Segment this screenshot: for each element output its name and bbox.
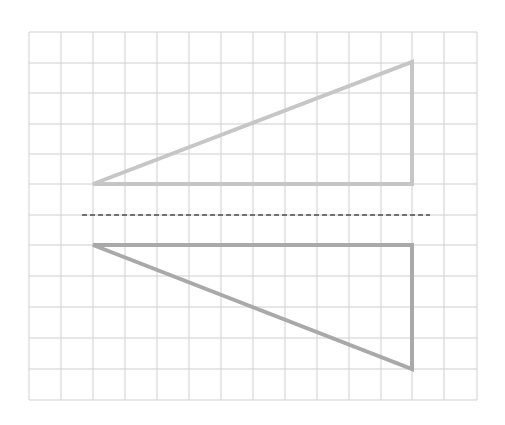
reflection-diagram [0,0,505,425]
